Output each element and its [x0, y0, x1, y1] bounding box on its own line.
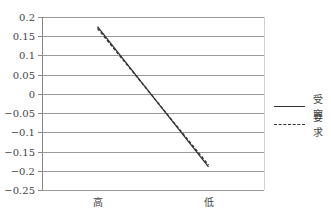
- x-category-label: 低: [204, 196, 214, 208]
- y-axis: 0.20.150.10.050−0.05−0.1−0.15−0.2−0.25: [4, 12, 264, 196]
- y-tick-label: −0.25: [4, 185, 35, 196]
- y-tick-label: 0.1: [19, 50, 35, 61]
- solid-line-icon: [274, 106, 305, 107]
- gridlines: [42, 18, 264, 191]
- dashed-line-icon: [274, 124, 305, 125]
- y-tick-label: −0.15: [4, 147, 35, 158]
- legend: 受容 要求: [274, 97, 331, 133]
- y-tick-label: −0.1: [11, 127, 35, 138]
- legend-label: 要求: [313, 109, 331, 139]
- y-tick-label: 0.2: [19, 12, 35, 23]
- data-series: [98, 27, 209, 167]
- x-category-label: 高: [93, 196, 103, 208]
- y-tick-label: −0.05: [4, 108, 35, 119]
- y-tick-label: 0: [29, 89, 35, 100]
- legend-item-request: 要求: [274, 115, 331, 133]
- series-line-dashed: [98, 29, 209, 166]
- y-tick-label: −0.2: [11, 166, 35, 177]
- y-tick-label: 0.05: [13, 70, 35, 81]
- x-axis: 高低: [93, 196, 214, 208]
- y-tick-label: 0.15: [13, 31, 35, 42]
